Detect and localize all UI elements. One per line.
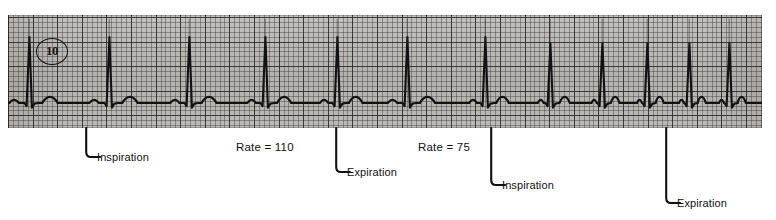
rate-annotation-75: Rate = 75: [418, 141, 470, 153]
ecg-waveform: [8, 15, 762, 128]
ecg-figure: 10 Inspiration Expiration Inspiration Ex…: [0, 0, 776, 220]
rate-annotation-110: Rate = 110: [236, 141, 294, 153]
annotation-label-expiration-1: Expiration: [347, 166, 397, 178]
annotation-label-expiration-2: Expiration: [677, 197, 727, 209]
annotation-label-inspiration-1: Inspiration: [97, 151, 149, 163]
ecg-strip: 10: [8, 15, 762, 128]
annotation-label-inspiration-2: Inspiration: [502, 179, 554, 191]
lead-marker-10: 10: [36, 38, 68, 65]
leader-line-expiration-2: [665, 128, 681, 208]
